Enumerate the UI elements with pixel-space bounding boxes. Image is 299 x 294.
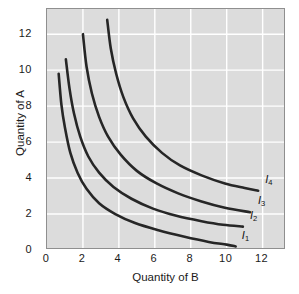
x-tick-label-6: 6 xyxy=(151,252,158,264)
y-tick-label-0: 0 xyxy=(25,243,32,255)
curve-label-I1: I1 xyxy=(242,229,249,241)
x-tick-label-10: 10 xyxy=(219,252,232,264)
y-tick-label-4: 4 xyxy=(25,171,32,183)
curve-label-subscript: 2 xyxy=(253,214,257,223)
chart-figure: 024681012 024681012 I1I2I3I4 Quantity of… xyxy=(0,0,299,294)
curve-I1 xyxy=(59,74,236,247)
y-tick-label-8: 8 xyxy=(25,99,32,111)
x-tick-label-0: 0 xyxy=(43,252,50,264)
curve-label-I3: I3 xyxy=(258,194,265,206)
curve-I3 xyxy=(83,34,250,212)
x-axis-title: Quantity of B xyxy=(46,271,285,283)
curve-label-subscript: 4 xyxy=(268,178,272,187)
curve-label-I4: I4 xyxy=(265,173,272,185)
x-tick-label-8: 8 xyxy=(186,252,193,264)
curve-label-subscript: 1 xyxy=(245,234,249,243)
y-tick-label-2: 2 xyxy=(25,207,32,219)
curve-label-I2: I2 xyxy=(250,209,257,221)
x-tick-label-4: 4 xyxy=(115,252,122,264)
curve-label-subscript: 3 xyxy=(261,199,265,208)
x-tick-label-2: 2 xyxy=(79,252,86,264)
y-axis-title: Quantity of A xyxy=(14,63,26,183)
x-tick-label-12: 12 xyxy=(255,252,268,264)
y-tick-label-6: 6 xyxy=(25,135,32,147)
indifference-curves xyxy=(59,20,258,247)
y-tick-label-12: 12 xyxy=(19,27,32,39)
